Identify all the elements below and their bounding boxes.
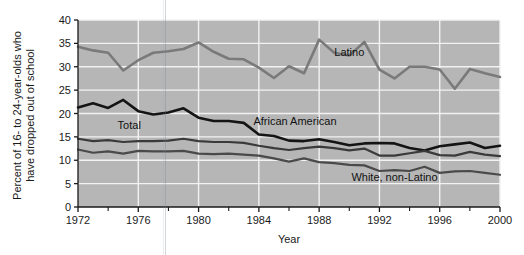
x-tick-label: 1992 xyxy=(367,214,391,226)
y-tick-label: 25 xyxy=(59,84,71,96)
y-tick-label: 10 xyxy=(59,154,71,166)
series-annotation-latino: Latino xyxy=(334,46,364,58)
x-tick-label: 1984 xyxy=(247,214,271,226)
x-tick-label: 1980 xyxy=(186,214,210,226)
x-tick-label: 1972 xyxy=(66,214,90,226)
y-tick-label: 30 xyxy=(59,61,71,73)
y-tick-label: 5 xyxy=(65,178,71,190)
series-annotation-white-non-latino: White, non-Latino xyxy=(351,171,437,183)
x-axis-title: Year xyxy=(278,233,301,245)
x-tick-label: 2000 xyxy=(488,214,512,226)
y-tick-label: 40 xyxy=(59,14,71,26)
dropout-rate-line-chart: 0510152025303540197219761980198419881992… xyxy=(0,0,524,255)
x-tick-label: 1976 xyxy=(126,214,150,226)
series-annotation-african-american: African American xyxy=(253,115,336,127)
series-annotation-total: Total xyxy=(118,119,141,131)
y-tick-label: 0 xyxy=(65,201,71,213)
chart-figure: 0510152025303540197219761980198419881992… xyxy=(0,0,524,255)
x-tick-label: 1996 xyxy=(427,214,451,226)
y-axis-title-line2: have dropped out of school xyxy=(24,49,36,182)
y-tick-label: 35 xyxy=(59,37,71,49)
x-tick-label: 1988 xyxy=(307,214,331,226)
y-tick-label: 20 xyxy=(59,108,71,120)
y-axis-title-line1: Percent of 16- to 24-year-olds who xyxy=(11,31,23,200)
y-tick-label: 15 xyxy=(59,131,71,143)
